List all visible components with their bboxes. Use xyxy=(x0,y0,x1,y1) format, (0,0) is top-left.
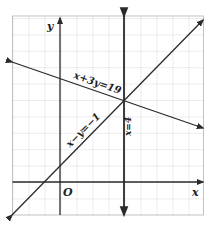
label-x-eq-4: x=4 xyxy=(123,117,133,137)
x-axis-label: x xyxy=(191,186,199,199)
origin-label: O xyxy=(63,186,73,199)
coordinate-plane: y x O x+3y=19 x−y=−1 x=4 xyxy=(0,0,209,226)
